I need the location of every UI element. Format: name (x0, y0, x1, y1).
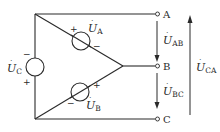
terminal-A (156, 12, 160, 16)
terminal-C (156, 117, 160, 121)
uab-dot: · (166, 28, 169, 37)
ub-plus-sign: + (93, 80, 101, 90)
uca-dot: · (199, 55, 202, 64)
ub-minus-sign: − (67, 98, 75, 108)
uc-dot: · (10, 56, 13, 65)
ub-dot: · (89, 93, 92, 102)
uc-minus-sign: − (23, 49, 31, 59)
terminal-B-label: B (163, 61, 170, 72)
terminal-A-label: A (162, 9, 171, 20)
ubc-arrow-head (155, 102, 160, 109)
terminal-B (156, 64, 160, 68)
uc-plus-sign: + (23, 77, 31, 87)
ubc-dot: · (166, 79, 169, 88)
terminal-C-label: C (163, 114, 171, 125)
uca-arrow-head (188, 15, 193, 23)
ua-minus-sign: − (93, 41, 101, 51)
ua-dot: · (91, 16, 94, 25)
source-uc-circle (26, 58, 44, 76)
ua-plus-sign: + (70, 24, 78, 34)
circuit-diagram: A B C − + UC · + − UA · + − UB · UAB · U… (0, 0, 220, 132)
uab-arrow-head (155, 55, 160, 62)
